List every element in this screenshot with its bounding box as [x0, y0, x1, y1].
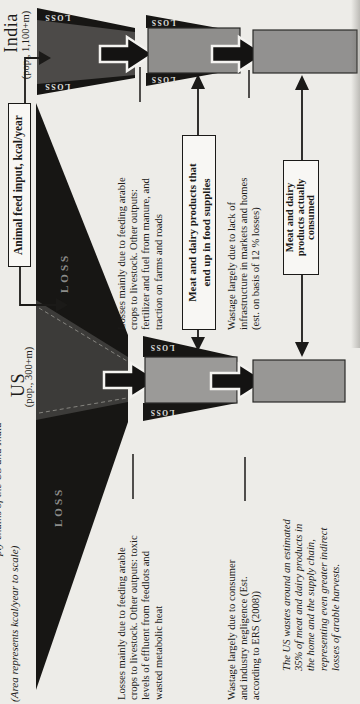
india-losses-line: traction on farms and roads: [153, 177, 165, 330]
feed-input-box: Animal feed input, kcal/year: [8, 103, 31, 267]
us-wastage-line: and industry negligence (Est.: [238, 560, 250, 700]
area-scale-note: (Area represents kcal/year to scale): [8, 546, 20, 702]
india-wastage-line: (est. on basis of 12 % losses): [250, 178, 262, 330]
us-wastage-text: Wastage largely due to consumer and indu…: [226, 560, 263, 700]
us-waste-note-line: losses of arable harvests.: [330, 519, 342, 671]
us-waste-note-line: 35% of meat and dairy products in: [293, 519, 305, 671]
us-waste-note-line: representing even greater indirect: [318, 519, 330, 671]
india-country-label: India: [1, 2, 22, 64]
consumed-arrow-right-head-icon: [295, 75, 309, 90]
india-wastage-line: infrastructure in markets and homes: [238, 178, 250, 330]
us-waste-note-line: the home and the supply chain,: [305, 519, 317, 671]
us-population-label: (pop., 300+m): [23, 338, 34, 416]
scanned-book-figure: ply chains of the US and India (Area rep…: [0, 0, 360, 704]
us-waste-note: The US wastes around an estimated 35% of…: [281, 519, 342, 671]
us-wastage-line: according to ERS (2008)): [250, 560, 262, 700]
us-funnel-loss-label-left: LOSS: [52, 487, 64, 527]
india-box1-loss-label-right: LOSS: [146, 16, 180, 28]
consumed-line: Meat and dairy: [285, 161, 296, 274]
india-losses-line: crops to livestock. Other outputs:: [128, 177, 140, 330]
india-box1-loss-label-left: LOSS: [146, 73, 180, 85]
us-stage-box-2: [253, 360, 345, 402]
us-losses-line: crops to livestock. Other outputs: toxic: [128, 535, 140, 700]
food-supplies-box: Meat and dairy products that end up in f…: [182, 135, 216, 330]
india-population-label: (pop., 1,100+m): [20, 0, 31, 90]
us-waste-note-line: The US wastes around an estimated: [281, 519, 293, 671]
us-losses-text: Losses mainly due to feeding arable crop…: [116, 535, 165, 700]
india-losses-line: fertilizer and fuel from manure, and: [140, 177, 152, 330]
india-losses-line: Losses mainly due to feeding arable: [116, 177, 128, 330]
us-losses-line: wasted metabolic heat: [153, 535, 165, 700]
page-edge-shadow: [351, 0, 360, 348]
india-losses-text: Losses mainly due to feeding arable crop…: [116, 177, 165, 330]
food-supplies-line: Meat and dairy products that: [185, 136, 199, 329]
food-supplies-line: end up in food supplies: [199, 136, 213, 329]
us-box1-loss-label-right: LOSS: [145, 341, 179, 353]
india-wastage-line: Wastage largely due to lack of: [226, 178, 238, 330]
us-box1-loss-label-left: LOSS: [145, 406, 179, 418]
us-funnel-loss-label-right: LOSS: [58, 253, 70, 293]
cut-off-caption-fragment: ply chains of the US and India: [0, 422, 3, 556]
us-losses-line: levels of effluent from feedlots and: [140, 535, 152, 700]
consumed-arrow-left-head-icon: [295, 342, 309, 357]
diagram-canvas: ply chains of the US and India (Area rep…: [0, 0, 360, 704]
india-wastage-text: Wastage largely due to lack of infrastru…: [226, 178, 263, 330]
india-funnel-loss-label-right: LOSS: [40, 11, 74, 23]
consumed-box: Meat and dairy products actually consume…: [283, 160, 319, 275]
us-losses-line: Losses mainly due to feeding arable: [116, 535, 128, 700]
us-wastage-line: Wastage largely due to consumer: [226, 560, 238, 700]
consumed-line: consumed: [306, 161, 317, 274]
india-stage-box-2: [253, 30, 357, 73]
india-funnel-loss-label-left: LOSS: [40, 80, 74, 92]
